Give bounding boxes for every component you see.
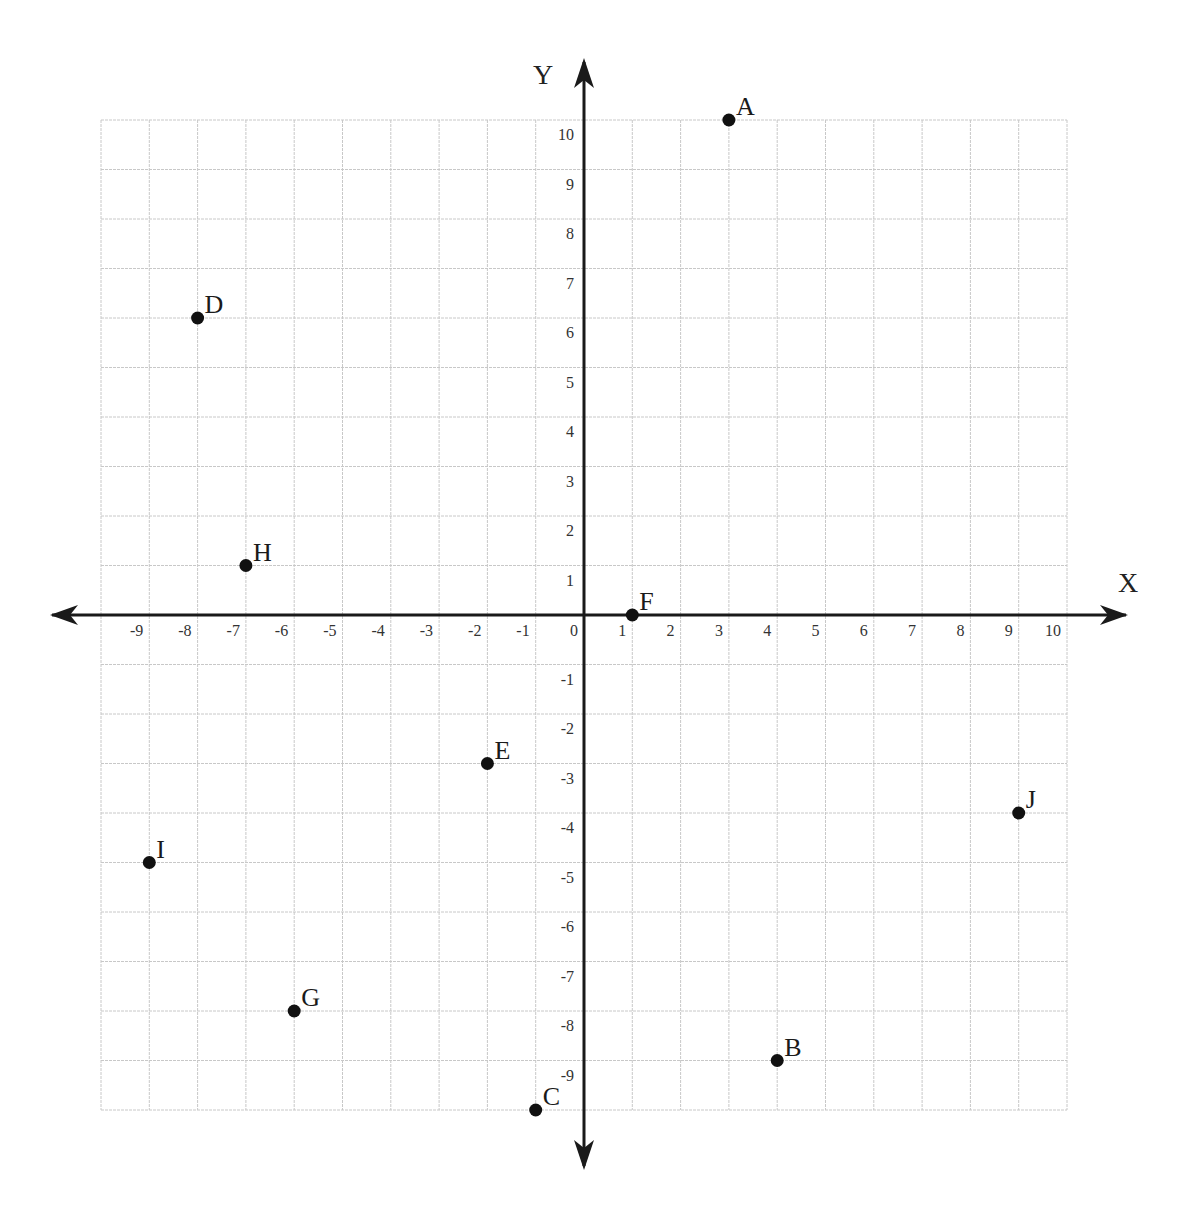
- point-marker-icon: [143, 856, 156, 869]
- y-tick-label: 2: [566, 522, 574, 539]
- y-tick-label: 9: [566, 176, 574, 193]
- data-points: ABCDEFGHIJ: [143, 92, 1036, 1117]
- y-tick-label: 4: [566, 423, 574, 440]
- x-tick-label: 1: [618, 622, 626, 639]
- y-tick-label: 5: [566, 374, 574, 391]
- data-point-g: G: [288, 983, 320, 1018]
- x-tick-label: 7: [908, 622, 916, 639]
- data-point-c: C: [529, 1082, 560, 1117]
- x-tick-label: 0: [570, 622, 578, 639]
- y-tick-label: -4: [561, 819, 574, 836]
- y-tick-label: -2: [561, 720, 574, 737]
- point-label: H: [253, 538, 272, 567]
- y-tick-label: 7: [566, 275, 574, 292]
- y-tick-label: 3: [566, 473, 574, 490]
- point-marker-icon: [481, 757, 494, 770]
- data-point-a: A: [722, 92, 755, 127]
- x-tick-label: -9: [130, 622, 143, 639]
- x-tick-label: -6: [275, 622, 288, 639]
- point-label: C: [543, 1082, 560, 1111]
- x-tick-label: -2: [468, 622, 481, 639]
- y-tick-label: -1: [561, 671, 574, 688]
- data-point-i: I: [143, 835, 165, 870]
- x-tick-label: -5: [323, 622, 336, 639]
- x-tick-label: -3: [420, 622, 433, 639]
- point-marker-icon: [239, 559, 252, 572]
- x-tick-label: 6: [860, 622, 868, 639]
- point-label: B: [784, 1033, 801, 1062]
- y-tick-label: -8: [561, 1017, 574, 1034]
- y-tick-label: 8: [566, 225, 574, 242]
- point-label: A: [736, 92, 755, 121]
- point-marker-icon: [722, 114, 735, 127]
- x-tick-label: 4: [763, 622, 771, 639]
- x-tick-label: 10: [1045, 622, 1061, 639]
- y-tick-label: -3: [561, 770, 574, 787]
- x-axis-tick-labels: -9-8-7-6-5-4-3-2-1012345678910: [130, 622, 1061, 639]
- point-marker-icon: [626, 609, 639, 622]
- y-axis-tick-labels: 10987654321-1-2-3-4-5-6-7-8-9: [558, 126, 574, 1084]
- x-tick-label: -8: [178, 622, 191, 639]
- y-tick-label: -9: [561, 1067, 574, 1084]
- point-label: F: [639, 587, 653, 616]
- x-tick-label: 9: [1005, 622, 1013, 639]
- point-label: G: [301, 983, 320, 1012]
- point-label: E: [494, 736, 510, 765]
- point-marker-icon: [191, 312, 204, 325]
- point-marker-icon: [771, 1054, 784, 1067]
- data-point-d: D: [191, 290, 223, 325]
- point-marker-icon: [1012, 807, 1025, 820]
- point-label: D: [205, 290, 224, 319]
- x-axis-title: X: [1118, 567, 1138, 598]
- point-marker-icon: [288, 1005, 301, 1018]
- point-label: I: [156, 835, 165, 864]
- point-marker-icon: [529, 1104, 542, 1117]
- x-tick-label: 5: [812, 622, 820, 639]
- y-tick-label: 6: [566, 324, 574, 341]
- y-tick-label: 1: [566, 572, 574, 589]
- data-point-h: H: [239, 538, 272, 573]
- axes: [50, 58, 1128, 1170]
- x-tick-label: -4: [371, 622, 384, 639]
- y-tick-label: -7: [561, 968, 574, 985]
- y-tick-label: 10: [558, 126, 574, 143]
- x-tick-label: 8: [956, 622, 964, 639]
- x-tick-label: -1: [516, 622, 529, 639]
- data-point-b: B: [771, 1033, 802, 1068]
- y-tick-label: -6: [561, 918, 574, 935]
- y-tick-label: -5: [561, 869, 574, 886]
- y-axis-title: Y: [533, 59, 553, 90]
- data-point-e: E: [481, 736, 510, 771]
- x-tick-label: -7: [227, 622, 240, 639]
- x-tick-label: 2: [667, 622, 675, 639]
- x-tick-label: 3: [715, 622, 723, 639]
- data-point-j: J: [1012, 785, 1036, 820]
- point-label: J: [1026, 785, 1036, 814]
- coordinate-plane: -9-8-7-6-5-4-3-2-1012345678910 109876543…: [0, 0, 1192, 1232]
